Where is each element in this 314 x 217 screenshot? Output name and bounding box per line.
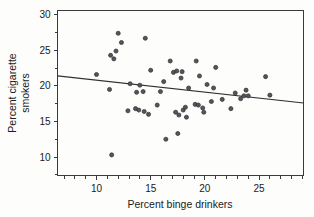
data-point xyxy=(205,82,209,86)
data-point xyxy=(175,69,179,73)
data-point xyxy=(168,59,172,63)
data-point xyxy=(128,82,132,86)
data-points xyxy=(94,31,271,157)
y-tick-label-10: 10 xyxy=(39,152,51,163)
data-point xyxy=(233,91,237,95)
x-axis-title: Percent binge drinkers xyxy=(127,198,232,210)
y-tick-label-30: 30 xyxy=(39,9,51,20)
y-axis-tick-labels: 1015202530 xyxy=(39,9,51,162)
data-point xyxy=(112,57,116,61)
y-tick-label-25: 25 xyxy=(39,45,51,56)
scatter-plot-figure: 1015202530 10152025 Percent binge drinke… xyxy=(0,0,314,217)
data-point xyxy=(141,90,145,94)
data-point xyxy=(201,106,205,110)
data-point xyxy=(143,36,147,40)
data-point xyxy=(158,90,162,94)
data-point xyxy=(179,76,183,80)
x-tick-label-25: 25 xyxy=(254,183,266,194)
data-point xyxy=(149,68,153,72)
data-point xyxy=(244,88,248,92)
data-point xyxy=(137,108,141,112)
x-tick-label-15: 15 xyxy=(145,183,157,194)
x-tick-label-10: 10 xyxy=(91,183,103,194)
data-point xyxy=(197,74,201,78)
data-point xyxy=(202,110,206,114)
y-axis-title-line-2: smokers xyxy=(19,73,31,113)
y-tick-label-15: 15 xyxy=(39,116,51,127)
x-axis-major-ticks xyxy=(97,176,260,181)
x-tick-label-20: 20 xyxy=(199,183,211,194)
data-point xyxy=(184,115,188,119)
data-point xyxy=(116,31,120,35)
data-point xyxy=(212,86,216,90)
data-point xyxy=(242,94,246,98)
x-axis-tick-labels: 10152025 xyxy=(91,183,265,194)
scatter-plot-svg: 1015202530 10152025 Percent binge drinke… xyxy=(0,0,314,217)
y-axis-title-line-1: Percent cigarette xyxy=(6,53,18,133)
data-point xyxy=(164,137,168,141)
data-point xyxy=(135,90,139,94)
data-point xyxy=(220,97,224,101)
data-point xyxy=(196,103,200,107)
data-point xyxy=(214,65,218,69)
data-point xyxy=(114,49,118,53)
data-point xyxy=(209,99,213,103)
data-point xyxy=(176,131,180,135)
data-point xyxy=(187,86,191,90)
data-point xyxy=(229,107,233,111)
data-point xyxy=(109,53,113,57)
data-point xyxy=(194,59,198,63)
data-point xyxy=(162,80,166,84)
plot-frame xyxy=(58,11,304,176)
data-point xyxy=(110,153,114,157)
data-point xyxy=(138,83,142,87)
data-point xyxy=(268,93,272,97)
data-point xyxy=(119,40,123,44)
y-tick-label-20: 20 xyxy=(39,80,51,91)
data-point xyxy=(246,94,250,98)
data-point xyxy=(126,109,130,113)
data-point xyxy=(146,112,150,116)
data-point xyxy=(264,75,268,79)
plot-frame-rect xyxy=(58,11,304,176)
data-point xyxy=(107,87,111,91)
data-point xyxy=(155,103,159,107)
y-axis-major-ticks xyxy=(54,15,58,157)
data-point xyxy=(183,105,187,109)
data-point xyxy=(94,72,98,76)
data-point xyxy=(180,70,184,74)
data-point xyxy=(142,109,146,113)
data-point xyxy=(177,113,181,117)
